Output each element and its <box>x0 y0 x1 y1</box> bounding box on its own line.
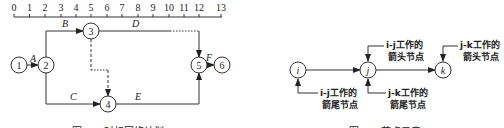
time-scale: 0 1 2 3 4 5 6 7 8 9 10 11 12 13 <box>12 2 227 17</box>
svg-text:i: i <box>297 65 300 76</box>
tick-9: 9 <box>151 2 156 13</box>
activity-b: B <box>62 18 68 29</box>
node-6: 6 <box>214 57 230 73</box>
node-arrows <box>298 46 458 93</box>
node-k: k <box>435 62 451 78</box>
svg-text:4: 4 <box>106 99 111 110</box>
ij-tail-label-1: i-j工作的 <box>320 87 357 98</box>
activity-a: A <box>29 53 37 64</box>
node-1: 1 <box>11 57 27 73</box>
activity-d: D <box>131 18 140 29</box>
diagram-canvas: 0 1 2 3 4 5 6 7 8 9 10 11 12 13 <box>0 0 504 128</box>
jk-head-label-2: 箭头节点 <box>463 51 499 62</box>
activity-c: C <box>70 91 77 102</box>
svg-text:1: 1 <box>17 60 22 71</box>
jk-tail-label-2: 箭尾节点 <box>390 99 426 110</box>
tick-8: 8 <box>136 2 141 13</box>
svg-text:6: 6 <box>220 60 225 71</box>
tick-7: 7 <box>120 2 125 13</box>
svg-text:3: 3 <box>89 26 94 37</box>
node-5: 5 <box>191 57 207 73</box>
tick-12: 12 <box>194 2 204 13</box>
node-i: i <box>290 62 306 78</box>
jk-tail-label-1: j-k工作的 <box>387 87 428 98</box>
tick-4: 4 <box>74 2 79 13</box>
tick-2: 2 <box>43 2 48 13</box>
tick-11: 11 <box>179 2 189 13</box>
tick-0: 0 <box>12 2 17 13</box>
network-arrows <box>27 31 214 104</box>
node-3: 3 <box>83 23 99 39</box>
tick-6: 6 <box>105 2 110 13</box>
ij-tail-label-2: 箭尾节点 <box>322 99 358 110</box>
network-nodes: 1 2 3 4 5 6 <box>11 23 230 112</box>
left-caption: 图 8.16 时标网络计划 <box>72 125 165 128</box>
right-caption: 图 8.17 节点示意 <box>349 125 422 128</box>
node-j: j <box>360 62 376 78</box>
svg-text:k: k <box>441 65 446 76</box>
tick-3: 3 <box>59 2 64 13</box>
ij-head-label-1: i-j工作的 <box>386 39 423 50</box>
jk-head-label-1: j-k工作的 <box>459 39 500 50</box>
node-4: 4 <box>100 96 116 112</box>
svg-text:2: 2 <box>44 60 49 71</box>
node-2: 2 <box>38 57 54 73</box>
tick-1: 1 <box>27 2 32 13</box>
tick-5: 5 <box>89 2 94 13</box>
tick-10: 10 <box>164 2 174 13</box>
tick-13: 13 <box>216 2 226 13</box>
ij-head-label-2: 箭头节点 <box>388 51 424 62</box>
svg-text:5: 5 <box>197 60 202 71</box>
node-callout-labels: i-j工作的 箭头节点 j-k工作的 箭头节点 i-j工作的 箭尾节点 j-k工… <box>320 39 500 110</box>
activity-e: E <box>134 91 141 102</box>
